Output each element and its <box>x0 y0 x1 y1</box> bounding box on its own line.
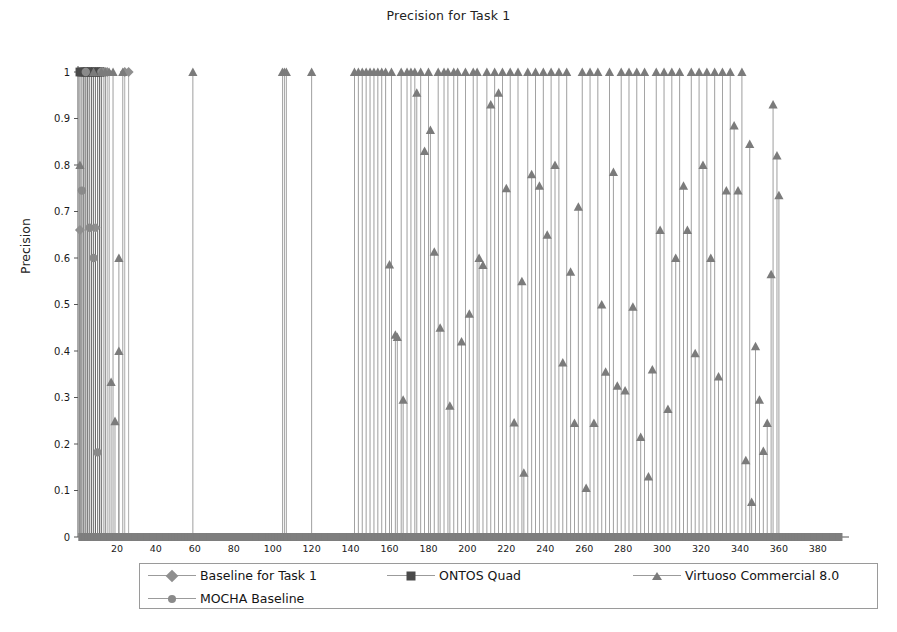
marker-triangle <box>730 121 739 130</box>
marker-triangle <box>593 67 602 76</box>
marker-triangle <box>589 418 598 427</box>
marker-triangle <box>751 342 760 351</box>
x-tick-label: 180 <box>419 543 437 554</box>
marker-triangle <box>465 309 474 318</box>
marker-triangle <box>652 67 661 76</box>
marker-triangle <box>106 378 115 387</box>
y-tick-label: 0.7 <box>54 206 70 217</box>
legend-entry-virtuoso-commercial-8-0[interactable]: Virtuoso Commercial 8.0 <box>631 564 839 587</box>
legend-entry-baseline-for-task-1[interactable]: Baseline for Task 1 <box>146 564 317 587</box>
marker-square <box>835 533 842 541</box>
marker-triangle <box>399 395 408 404</box>
marker-triangle <box>714 372 723 381</box>
x-tick-label: 140 <box>342 543 360 554</box>
marker-circle <box>82 68 90 76</box>
marker-triangle <box>656 226 665 235</box>
marker-triangle <box>763 418 772 427</box>
marker-triangle <box>597 300 606 309</box>
marker-triangle <box>517 277 526 286</box>
marker-triangle <box>644 472 653 481</box>
marker-triangle <box>613 381 622 390</box>
marker-triangle <box>648 365 657 374</box>
marker-triangle <box>741 456 750 465</box>
marker-triangle <box>420 146 429 155</box>
marker-triangle <box>620 386 629 395</box>
marker-triangle <box>570 418 579 427</box>
y-tick-label: 0.3 <box>54 392 70 403</box>
marker-triangle <box>745 139 754 148</box>
marker-triangle <box>747 498 756 507</box>
y-tick-label: 0.5 <box>54 299 70 310</box>
marker-triangle <box>726 67 735 76</box>
marker-triangle <box>188 67 197 76</box>
marker-triangle <box>547 67 556 76</box>
y-tick-label: 0 <box>64 532 70 543</box>
x-tick-label: 20 <box>111 543 123 554</box>
marker-triangle <box>543 230 552 239</box>
legend-label: MOCHA Baseline <box>198 591 304 606</box>
marker-triangle <box>640 67 649 76</box>
marker-triangle <box>461 67 470 76</box>
marker-triangle <box>424 67 433 76</box>
marker-triangle <box>636 432 645 441</box>
baseline-marker-band <box>78 533 842 541</box>
marker-triangle <box>768 100 777 109</box>
y-tick-label: 0.9 <box>54 113 70 124</box>
marker-triangle <box>535 181 544 190</box>
marker-triangle <box>659 67 668 76</box>
marker-triangle <box>513 67 522 76</box>
marker-triangle <box>539 67 548 76</box>
marker-triangle <box>566 267 575 276</box>
marker-triangle <box>683 226 692 235</box>
marker-triangle <box>527 170 536 179</box>
marker-triangle <box>628 302 637 311</box>
chart-legend: Baseline for Task 1 ONTOS Quad Virtuoso … <box>139 563 878 609</box>
marker-triangle <box>426 126 435 135</box>
marker-triangle <box>605 67 614 76</box>
marker-triangle <box>691 349 700 358</box>
x-tick-label: 320 <box>692 543 710 554</box>
marker-triangle <box>679 181 688 190</box>
marker-triangle <box>114 253 123 262</box>
marker-triangle <box>457 337 466 346</box>
marker-triangle <box>585 67 594 76</box>
marker-triangle <box>737 67 746 76</box>
x-tick-label: 40 <box>150 543 162 554</box>
diamond-icon <box>146 569 198 583</box>
chart-page: Precision for Task 1 Precision 00.10.20.… <box>0 0 897 632</box>
y-tick-label: 0.1 <box>54 485 70 496</box>
marker-triangle <box>110 417 119 426</box>
marker-triangle <box>582 484 591 493</box>
legend-entry-ontos-quad[interactable]: ONTOS Quad <box>385 564 521 587</box>
legend-label: ONTOS Quad <box>437 568 521 583</box>
square-icon <box>385 569 437 583</box>
stem-lines <box>80 72 779 537</box>
marker-circle <box>85 224 93 232</box>
marker-triangle <box>385 260 394 269</box>
marker-triangle <box>498 67 507 76</box>
marker-circle <box>78 186 86 194</box>
marker-triangle <box>412 88 421 97</box>
x-tick-label: 100 <box>264 543 282 554</box>
legend-label: Baseline for Task 1 <box>198 568 317 583</box>
marker-triangle <box>687 67 696 76</box>
marker-triangle <box>558 358 567 367</box>
marker-triangle <box>675 67 684 76</box>
marker-triangle <box>772 151 781 160</box>
marker-triangle <box>554 67 563 76</box>
marker-circle <box>89 254 97 262</box>
y-tick-label: 1 <box>64 67 70 78</box>
x-tick-label: 60 <box>189 543 201 554</box>
marker-triangle <box>436 323 445 332</box>
legend-row-2: MOCHA Baseline <box>140 587 877 610</box>
marker-triangle <box>550 160 559 169</box>
marker-triangle <box>733 186 742 195</box>
marker-triangle <box>774 191 783 200</box>
marker-triangle <box>510 418 519 427</box>
legend-row-1: Baseline for Task 1 ONTOS Quad Virtuoso … <box>140 564 877 587</box>
marker-triangle <box>632 67 641 76</box>
marker-triangle <box>474 253 483 262</box>
legend-entry-mocha-baseline[interactable]: MOCHA Baseline <box>146 587 304 610</box>
marker-triangle <box>523 67 532 76</box>
marker-triangle <box>755 395 764 404</box>
